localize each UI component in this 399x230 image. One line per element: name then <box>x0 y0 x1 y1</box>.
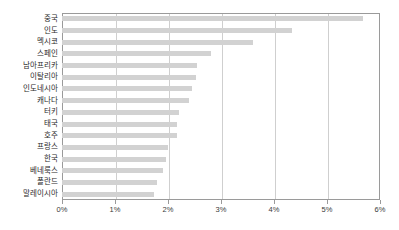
x-tick-label: 5% <box>322 205 333 215</box>
bar <box>62 180 157 185</box>
tick-mark <box>62 200 63 204</box>
bars-group <box>62 13 380 200</box>
horizontal-bar-chart: 중국인도멕시코스페인남아프리카이탈리아인도네시아캐나다터키태국호주프랑스한국베네… <box>0 0 399 230</box>
bar <box>62 145 168 150</box>
tick-mark <box>327 200 328 204</box>
bar <box>62 63 197 68</box>
category-label: 태국 <box>0 120 58 128</box>
bar <box>62 110 179 115</box>
category-label: 인도 <box>0 27 58 35</box>
tick-mark <box>221 200 222 204</box>
bar-row <box>62 110 380 115</box>
tick-mark <box>380 200 381 204</box>
bar <box>62 28 292 33</box>
bar <box>62 192 154 197</box>
category-label: 호주 <box>0 132 58 140</box>
x-tick-label: 4% <box>269 205 280 215</box>
bar-row <box>62 133 380 138</box>
bar <box>62 133 177 138</box>
bar-row <box>62 122 380 127</box>
bar-row <box>62 40 380 45</box>
tick-mark <box>115 200 116 204</box>
x-axis-tick-marks <box>62 200 380 204</box>
category-label: 폴란드 <box>0 178 58 186</box>
category-label: 스페인 <box>0 50 58 58</box>
bar-row <box>62 192 380 197</box>
bar <box>62 168 163 173</box>
bar <box>62 122 177 127</box>
bar <box>62 40 253 45</box>
bar-row <box>62 51 380 56</box>
category-axis-labels: 중국인도멕시코스페인남아프리카이탈리아인도네시아캐나다터키태국호주프랑스한국베네… <box>0 13 58 200</box>
category-label: 프랑스 <box>0 143 58 151</box>
category-label: 이탈리아 <box>0 73 58 81</box>
category-label: 베네룩스 <box>0 167 58 175</box>
bar-row <box>62 28 380 33</box>
category-label: 멕시코 <box>0 38 58 46</box>
category-label: 한국 <box>0 155 58 163</box>
category-label: 남아프리카 <box>0 62 58 70</box>
bar-row <box>62 16 380 21</box>
x-tick-label: 3% <box>216 205 227 215</box>
bar-row <box>62 180 380 185</box>
x-tick-label: 2% <box>163 205 174 215</box>
x-axis-tick-labels: 0%1%2%3%4%5%6% <box>0 205 399 219</box>
bar-row <box>62 168 380 173</box>
bar-row <box>62 145 380 150</box>
bar <box>62 157 166 162</box>
x-tick-label: 1% <box>110 205 121 215</box>
tick-mark <box>274 200 275 204</box>
bar <box>62 16 363 21</box>
category-label: 캐나다 <box>0 97 58 105</box>
x-tick-label: 6% <box>375 205 386 215</box>
bar-row <box>62 75 380 80</box>
bar-row <box>62 98 380 103</box>
category-label: 말레이시아 <box>0 190 58 198</box>
category-label: 인도네시아 <box>0 85 58 93</box>
bar-row <box>62 63 380 68</box>
category-label: 터키 <box>0 108 58 116</box>
category-label: 중국 <box>0 15 58 23</box>
bar <box>62 98 189 103</box>
bar-row <box>62 157 380 162</box>
tick-mark <box>168 200 169 204</box>
bar <box>62 75 196 80</box>
x-tick-label: 0% <box>57 205 68 215</box>
bar-row <box>62 86 380 91</box>
bar <box>62 51 211 56</box>
bar <box>62 86 192 91</box>
